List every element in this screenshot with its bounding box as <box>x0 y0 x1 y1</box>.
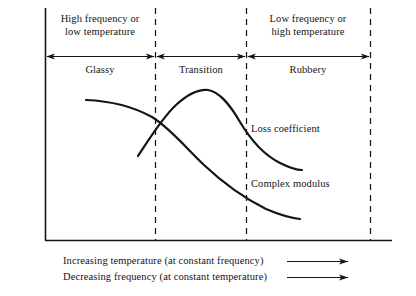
header-right-frequency-temperature: Low frequency or high temperature <box>270 13 347 38</box>
diagram-canvas <box>0 0 416 296</box>
region-label-glassy: Glassy <box>85 64 114 77</box>
header-left-line2: low temperature <box>61 26 140 39</box>
region-label-transition: Transition <box>179 64 223 77</box>
curve-label-complex-modulus: Complex modulus <box>251 178 330 191</box>
header-right-line2: high temperature <box>270 26 347 39</box>
footnote-increasing-temperature: Increasing temperature (at constant freq… <box>63 255 264 268</box>
footnote-decreasing-frequency: Decreasing frequency (at constant temper… <box>63 271 267 284</box>
header-left-frequency-temperature: High frequency or low temperature <box>61 13 140 38</box>
curve-label-loss-coefficient: Loss coefficient <box>251 123 320 136</box>
viscoelastic-behavior-figure: High frequency or low temperature Low fr… <box>0 0 416 296</box>
region-label-rubbery: Rubbery <box>290 64 327 77</box>
header-right-line1: Low frequency or <box>270 13 347 26</box>
curve-complex-modulus <box>86 100 300 219</box>
header-left-line1: High frequency or <box>61 13 140 26</box>
